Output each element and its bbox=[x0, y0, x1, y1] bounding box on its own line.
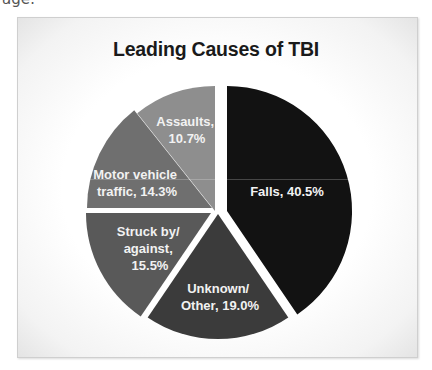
pie-chart: Falls, 40.5% Unknown/ Other, 19.0% Struc… bbox=[0, 0, 432, 370]
label-falls: Falls, 40.5% bbox=[250, 184, 324, 199]
scan-artifact-line bbox=[88, 179, 356, 180]
